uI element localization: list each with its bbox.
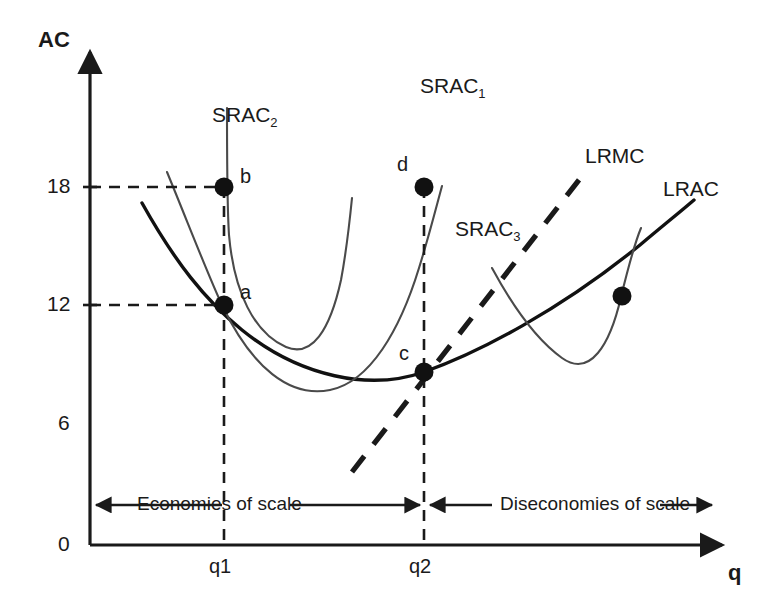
curve-label-lrmc: LRMC: [585, 145, 645, 166]
point-a-marker: [215, 296, 234, 315]
curve-label-srac2: SRAC2: [212, 104, 278, 129]
curve-label-srac3-text: SRAC: [455, 217, 513, 240]
curve-label-srac3-sub: 3: [513, 229, 520, 244]
point-srac3-tangency-marker: [613, 287, 632, 306]
x-axis-title: q: [728, 562, 741, 584]
point-b-marker: [215, 178, 234, 197]
point-c-marker: [415, 363, 434, 382]
curve-label-srac1: SRAC1: [420, 75, 486, 100]
region-label-diseconomies: Diseconomies of scale: [500, 494, 690, 513]
x-tick-label-q2: q2: [409, 556, 431, 576]
y-axis-title: AC: [38, 29, 70, 51]
curve-label-srac2-text: SRAC: [212, 103, 270, 126]
point-label-c: c: [399, 343, 409, 363]
point-label-d: d: [397, 154, 408, 174]
point-label-a: a: [240, 282, 251, 302]
region-label-economies: Economies of scale: [137, 494, 302, 513]
x-tick-label-q1: q1: [209, 556, 231, 576]
y-tick-label-12: 12: [47, 293, 70, 314]
curve-label-srac1-sub: 1: [478, 86, 485, 101]
curve-label-srac1-text: SRAC: [420, 74, 478, 97]
chart-canvas: [0, 0, 771, 610]
curve-label-lrac: LRAC: [663, 178, 719, 199]
curve-label-srac2-sub: 2: [270, 115, 277, 130]
curve-label-srac3: SRAC3: [455, 218, 521, 243]
y-tick-label-0: 0: [58, 533, 70, 554]
y-tick-label-18: 18: [47, 175, 70, 196]
cost-curve-diagram: AC q 18 12 6 0 q1 q2 SRAC2 SRAC1 SRAC3 L…: [0, 0, 771, 610]
y-tick-label-6: 6: [58, 412, 70, 433]
point-label-b: b: [240, 166, 251, 186]
point-d-marker: [415, 178, 434, 197]
srac2-curve: [227, 108, 352, 349]
